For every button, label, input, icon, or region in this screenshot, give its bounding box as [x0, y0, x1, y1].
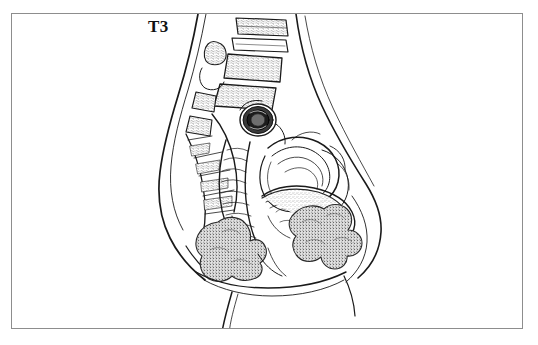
tumor-mass-right — [289, 205, 362, 270]
figure-root: T3 — [0, 0, 538, 345]
spinous-process — [204, 42, 226, 65]
anatomy-illustration — [0, 0, 538, 345]
vessel-cross-section — [240, 100, 285, 144]
stage-label: T3 — [148, 18, 168, 35]
tumor-mass-left — [196, 217, 266, 281]
